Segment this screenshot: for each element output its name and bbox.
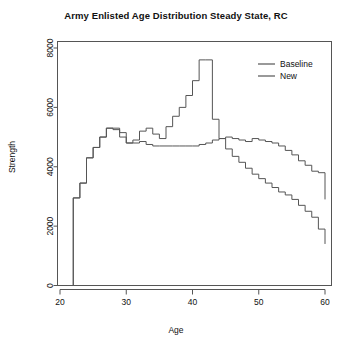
chart-legend: BaselineNew xyxy=(258,59,313,81)
y-tick-label: 2000 xyxy=(45,216,55,235)
x-tick-label: 50 xyxy=(254,297,264,307)
x-tick-label: 30 xyxy=(122,297,132,307)
legend-label-new: New xyxy=(280,71,298,81)
chart-canvas: 02000400060008000 2030405060 BaselineNew xyxy=(0,0,352,358)
series-line-baseline xyxy=(67,128,325,285)
legend-label-baseline: Baseline xyxy=(280,59,313,69)
chart-figure: Army Enlisted Age Distribution Steady St… xyxy=(0,0,352,358)
data-series-layer xyxy=(67,60,325,286)
x-axis: 2030405060 xyxy=(55,290,330,307)
y-tick-label: 6000 xyxy=(45,98,55,117)
y-tick-label: 0 xyxy=(45,283,55,288)
series-line-new xyxy=(67,60,325,286)
y-tick-label: 4000 xyxy=(45,157,55,176)
x-tick-label: 20 xyxy=(55,297,65,307)
x-tick-label: 60 xyxy=(320,297,330,307)
x-tick-label: 40 xyxy=(188,297,198,307)
y-axis: 02000400060008000 xyxy=(45,38,58,288)
y-tick-label: 8000 xyxy=(45,38,55,57)
